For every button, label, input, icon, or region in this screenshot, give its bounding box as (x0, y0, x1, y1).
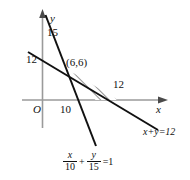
y-intercept-12-label: 12 (26, 54, 37, 65)
line-equation-label: x+y=12 (143, 127, 175, 137)
fraction-x-over-10: x 10 (63, 150, 77, 172)
x-intercept-10-label: 10 (60, 104, 71, 115)
graph-figure: y x O 15 12 10 12 (6,6) x+y=12 x 10 + y … (0, 0, 190, 180)
fraction-numerator-x: x (66, 150, 74, 161)
fraction-y-over-15: y 15 (87, 150, 101, 172)
x-axis-label: x (156, 104, 161, 115)
plus-operator: + (79, 156, 85, 167)
fraction-equation: x 10 + y 15 =1 (62, 150, 113, 172)
line-x-plus-y-12 (28, 52, 158, 130)
equals-one: =1 (103, 156, 114, 167)
y-intercept-15-label: 15 (47, 27, 58, 38)
fraction-numerator-y: y (89, 150, 97, 161)
intersection-point-label: (6,6) (66, 57, 87, 68)
origin-label: O (33, 104, 41, 115)
fraction-denominator-15: 15 (87, 162, 101, 173)
x-intercept-12-label: 12 (113, 79, 124, 90)
y-axis-label: y (50, 13, 55, 24)
fraction-denominator-10: 10 (63, 162, 77, 173)
